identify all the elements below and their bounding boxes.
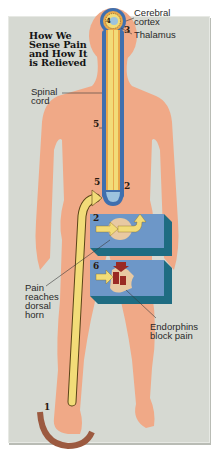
step-2-cord: 2	[124, 182, 130, 191]
label-dorsal-horn: Pain reaches dorsal horn	[25, 283, 59, 319]
step-5-base: 5	[94, 178, 100, 187]
spinal-cord	[102, 30, 124, 206]
label-cerebral-cortex: Cerebral cortex	[134, 8, 170, 26]
step-1: 1	[44, 403, 50, 412]
diagram-title: How We Sense Pain and How It is Relieved	[29, 31, 87, 67]
step-5-cord: 5	[93, 120, 99, 129]
dorsal-horn-box-bottom	[90, 260, 172, 304]
step-2-box: 2	[93, 214, 99, 223]
label-spinal-cord: Spinal cord	[31, 87, 57, 105]
step-3: 3	[124, 26, 130, 35]
body-diagram	[0, 0, 220, 456]
step-6: 6	[93, 262, 99, 271]
step-4: 4	[106, 16, 111, 25]
label-thalamus: Thalamus	[134, 30, 176, 39]
dorsal-horn-box-top	[90, 214, 172, 256]
label-endorphins: Endorphins block pain	[150, 322, 198, 340]
